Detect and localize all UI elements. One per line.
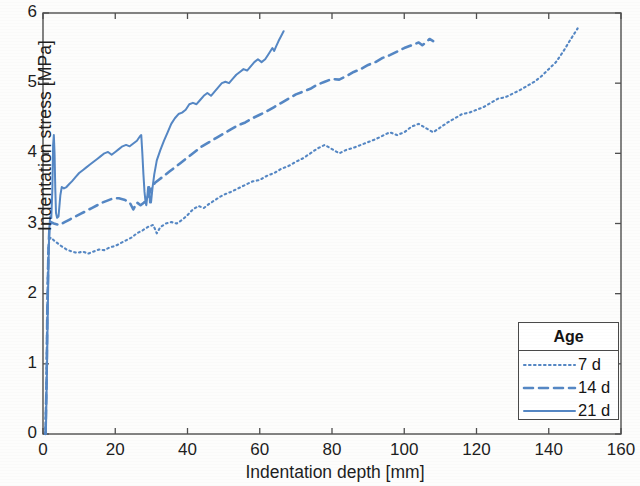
x-tick-label: 40 — [168, 440, 208, 460]
legend-entry: 7 d — [519, 353, 618, 376]
chart-figure: Indentation stress [MPa] Indentation dep… — [0, 0, 640, 486]
y-tick-label: 5 — [28, 72, 37, 92]
x-tick-label: 100 — [384, 440, 424, 460]
y-tick-label: 4 — [28, 142, 37, 162]
x-tick-label: 20 — [95, 440, 135, 460]
y-tick-label: 0 — [28, 423, 37, 443]
x-tick-label: 140 — [529, 440, 569, 460]
legend-entry: 21 d — [519, 399, 618, 422]
x-tick-label: 60 — [240, 440, 280, 460]
legend-line-sample — [522, 405, 577, 417]
legend-title: Age — [519, 323, 618, 351]
legend-label: 14 d — [578, 378, 610, 397]
legend-entries: 7 d14 d21 d — [519, 351, 618, 422]
legend-label: 7 d — [578, 355, 601, 374]
legend-label: 21 d — [578, 401, 610, 420]
y-tick-label: 3 — [28, 213, 37, 233]
y-tick-label: 1 — [28, 353, 37, 373]
legend: Age 7 d14 d21 d — [518, 322, 619, 420]
x-tick-label: 0 — [23, 440, 63, 460]
y-tick-label: 6 — [28, 2, 37, 22]
x-tick-label: 160 — [601, 440, 640, 460]
x-tick-label: 120 — [457, 440, 497, 460]
legend-line-sample — [522, 359, 577, 371]
legend-entry: 14 d — [519, 376, 618, 399]
y-tick-label: 2 — [28, 283, 37, 303]
x-tick-label: 80 — [312, 440, 352, 460]
legend-line-sample — [522, 382, 577, 394]
